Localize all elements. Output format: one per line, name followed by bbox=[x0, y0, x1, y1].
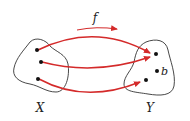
domain-label: X bbox=[35, 101, 45, 115]
domain-point-3 bbox=[36, 77, 40, 81]
mapping-arrow-2 bbox=[42, 57, 150, 68]
point-b-label: b bbox=[161, 65, 168, 78]
mapping-arrow-1 bbox=[38, 37, 150, 53]
codomain-point-b bbox=[155, 69, 159, 73]
codomain-point-2 bbox=[144, 78, 148, 82]
codomain-point-1 bbox=[154, 52, 158, 56]
domain-point-1 bbox=[35, 48, 39, 52]
domain-point-2 bbox=[39, 60, 43, 64]
function-direction-arrow bbox=[77, 28, 117, 30]
function-label: f bbox=[92, 11, 100, 25]
function-mapping-diagram: f b X Y bbox=[0, 0, 190, 121]
codomain-label: Y bbox=[146, 101, 155, 115]
